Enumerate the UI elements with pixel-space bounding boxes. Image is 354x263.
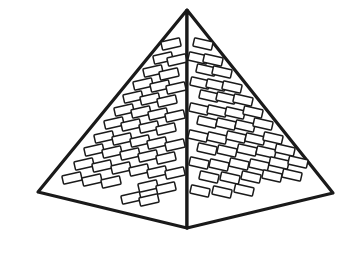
pyramid-illustration [0,0,354,263]
image-canvas [0,0,354,263]
